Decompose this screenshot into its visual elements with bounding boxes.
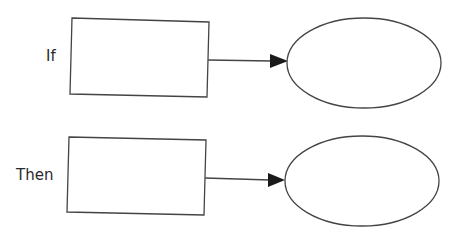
if-then-diagram: If Then — [0, 0, 458, 239]
if-ellipse — [287, 18, 441, 108]
if-arrow-line — [208, 60, 272, 61]
then-ellipse — [285, 136, 439, 226]
if-label: If — [46, 47, 56, 65]
then-arrow-line — [205, 178, 270, 180]
if-box — [70, 18, 209, 97]
if-row: If — [46, 18, 441, 108]
then-box — [67, 137, 206, 215]
then-arrowhead-icon — [268, 173, 285, 187]
then-label: Then — [15, 166, 53, 184]
then-row: Then — [15, 136, 439, 226]
if-arrowhead-icon — [270, 54, 288, 68]
